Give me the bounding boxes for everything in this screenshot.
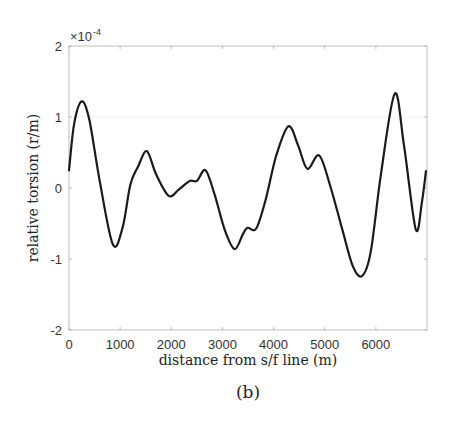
y-tick-label: -2 (50, 323, 62, 338)
x-tick-label: 4000 (259, 337, 288, 352)
x-tick-label: 2000 (157, 337, 186, 352)
plot-area: 0100020003000400050006000 -2-1012 (50, 39, 427, 352)
y-tick-label: 2 (55, 39, 62, 54)
x-tick-label: 6000 (361, 337, 390, 352)
line-chart: 0100020003000400050006000 -2-1012 ×10 -4… (0, 0, 451, 423)
x-tick-label: 3000 (208, 337, 237, 352)
y-tick-label: 1 (55, 110, 62, 125)
x-tick-label: 0 (65, 337, 72, 352)
y-exponent-power: -4 (93, 27, 101, 37)
x-axis-label: distance from s/f line (m) (159, 352, 338, 368)
x-tick-label: 5000 (310, 337, 339, 352)
x-tick-label: 1000 (106, 337, 135, 352)
y-exponent-base: ×10 (70, 29, 92, 44)
y-tick-label: -1 (50, 252, 62, 267)
y-axis-label: relative torsion (r/m) (25, 114, 41, 262)
figure-caption: (b) (236, 382, 260, 402)
y-exponent: ×10 -4 (70, 27, 101, 44)
axes-box (69, 46, 427, 330)
y-tick-label: 0 (55, 181, 62, 196)
